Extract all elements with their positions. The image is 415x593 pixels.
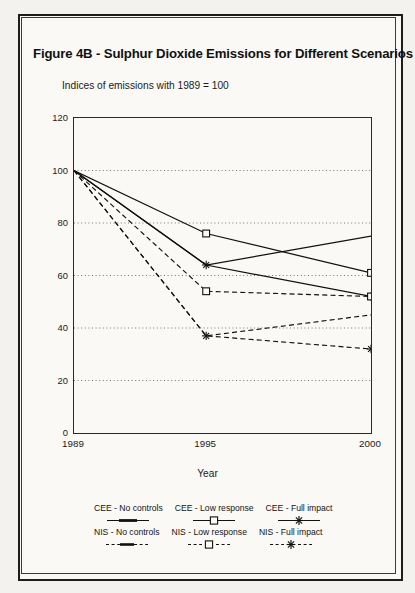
chart-subtitle: Indices of emissions with 1989 = 100 bbox=[62, 80, 229, 91]
data-point-marker-square bbox=[203, 288, 210, 295]
legend-item[interactable]: CEE - No controls bbox=[88, 503, 169, 527]
figure-title: Figure 4B - Sulphur Dioxide Emissions fo… bbox=[33, 46, 388, 61]
legend-swatch-square-solid bbox=[191, 514, 237, 527]
legend-item[interactable]: NIS - Full impact bbox=[253, 527, 329, 551]
x-tick-label: 1989 bbox=[62, 438, 84, 449]
legend-label: CEE - Full impact bbox=[266, 503, 333, 514]
legend-label: CEE - No controls bbox=[94, 503, 163, 514]
y-tick-label: 40 bbox=[28, 322, 68, 333]
x-axis-tick-labels: 198919952000 bbox=[73, 438, 370, 454]
legend-row: NIS - No controlsNIS - Low responseNIS -… bbox=[88, 527, 338, 551]
y-axis-tick-labels: 020406080100120 bbox=[26, 117, 68, 432]
series-line bbox=[74, 171, 371, 273]
legend-swatch-star-dashed bbox=[268, 538, 314, 551]
y-tick-label: 60 bbox=[28, 269, 68, 280]
chart-legend: CEE - No controlsCEE - Low responseCEE -… bbox=[88, 503, 338, 551]
x-tick-label: 1995 bbox=[194, 438, 216, 449]
y-tick-label: 80 bbox=[28, 217, 68, 228]
y-tick-label: 100 bbox=[28, 164, 68, 175]
data-point-marker-square bbox=[368, 269, 371, 276]
x-axis-label: Year bbox=[0, 468, 415, 479]
series-line bbox=[74, 171, 371, 297]
legend-swatch-square-dashed bbox=[186, 538, 232, 551]
legend-swatch-none-dashed bbox=[104, 538, 150, 551]
series-line bbox=[74, 171, 371, 266]
figure-page: Figure 4B - Sulphur Dioxide Emissions fo… bbox=[0, 0, 415, 593]
legend-label: NIS - Low response bbox=[171, 527, 246, 538]
data-point-marker-square bbox=[368, 293, 371, 300]
series-line bbox=[74, 171, 371, 297]
chart-canvas bbox=[74, 118, 371, 433]
legend-swatch-star-solid bbox=[276, 514, 322, 527]
data-point-marker-star bbox=[202, 261, 210, 269]
legend-label: NIS - Full impact bbox=[259, 527, 323, 538]
y-tick-label: 20 bbox=[28, 374, 68, 385]
legend-swatch-none-solid bbox=[105, 514, 151, 527]
legend-label: NIS - No controls bbox=[94, 527, 159, 538]
legend-item[interactable]: NIS - Low response bbox=[165, 527, 252, 551]
y-tick-label: 120 bbox=[28, 112, 68, 123]
data-point-marker-star bbox=[367, 345, 371, 353]
series-line bbox=[74, 171, 371, 336]
plot-area bbox=[73, 117, 372, 434]
legend-row: CEE - No controlsCEE - Low responseCEE -… bbox=[88, 503, 338, 527]
legend-item[interactable]: NIS - No controls bbox=[88, 527, 165, 551]
legend-item[interactable]: CEE - Full impact bbox=[260, 503, 339, 527]
series-line bbox=[74, 171, 371, 350]
legend-item[interactable]: CEE - Low response bbox=[169, 503, 260, 527]
y-tick-label: 0 bbox=[28, 427, 68, 438]
legend-label: CEE - Low response bbox=[175, 503, 254, 514]
x-tick-label: 2000 bbox=[359, 438, 381, 449]
data-point-marker-square bbox=[203, 230, 210, 237]
